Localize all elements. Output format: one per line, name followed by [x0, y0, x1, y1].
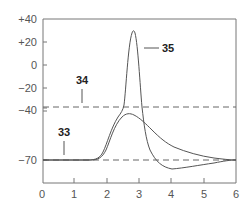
x-tick-label: 3 [136, 188, 142, 200]
x-tick-label: 6 [233, 188, 239, 200]
chart: +40 +20 0 −20 −40 −70 0 1 2 3 4 5 6 33 3… [0, 0, 250, 209]
y-ticks [43, 42, 47, 160]
y-tick-labels: +40 +20 0 −20 −40 −70 [18, 13, 37, 166]
action-potential-curve [43, 31, 236, 169]
y-tick-label: −20 [18, 82, 37, 94]
annotation-label: 34 [76, 74, 89, 86]
y-tick-label: 0 [31, 59, 37, 71]
x-tick-label: 4 [168, 188, 174, 200]
subthreshold-curve [43, 114, 236, 160]
annotation-label: 35 [162, 42, 174, 54]
x-ticks [74, 178, 204, 183]
x-tick-labels: 0 1 2 3 4 5 6 [39, 188, 239, 200]
y-tick-label: +40 [18, 13, 37, 25]
annotation-34: 34 [76, 74, 89, 103]
y-tick-label: −40 [18, 104, 37, 116]
x-tick-label: 1 [71, 188, 77, 200]
y-tick-label: +20 [18, 36, 37, 48]
annotation-33: 33 [58, 126, 70, 155]
plot-frame [43, 19, 236, 183]
x-tick-label: 2 [104, 188, 110, 200]
annotation-label: 33 [58, 126, 70, 138]
x-tick-label: 0 [39, 188, 45, 200]
x-tick-label: 5 [201, 188, 207, 200]
annotation-35: 35 [144, 42, 174, 54]
y-tick-label: −70 [18, 154, 37, 166]
